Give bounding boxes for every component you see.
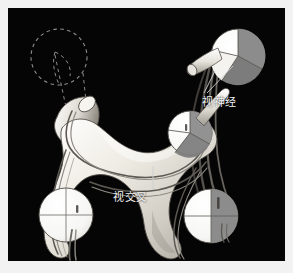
label-optic-nerve: 视神经 (202, 97, 237, 108)
label-optic-chiasm: 视交叉 (113, 192, 148, 203)
figure-root: 视神经 视交叉 (0, 0, 293, 273)
upper-right-eye (185, 29, 265, 85)
optic-chiasm-illustration (0, 0, 293, 273)
missing-eye-outline-icon (31, 29, 87, 85)
lower-right-eye (184, 189, 238, 243)
